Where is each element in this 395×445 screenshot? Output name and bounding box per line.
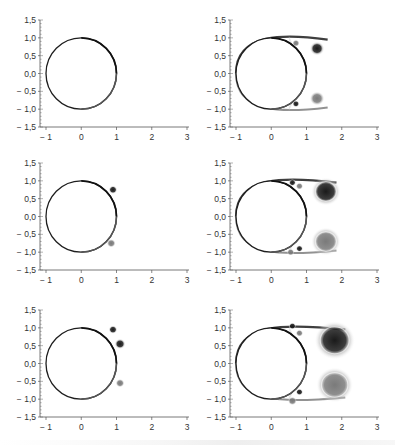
x-tick-label: 2 [339,132,344,142]
plot-area: 1,51,00,50,0− 0,5− 1,0− 1,5− 10123 [190,143,387,293]
y-tick-label: 1,0 [24,323,36,333]
y-tick-label: 0,5 [24,341,36,351]
x-tick-label: 0 [79,275,84,285]
y-tick-label: − 1,0 [207,104,226,114]
vortex [296,183,303,190]
vortex [287,249,294,256]
vortex [289,323,296,330]
y-tick-label: 0,0 [24,359,36,369]
x-tick-label: 2 [149,422,154,432]
y-tick-label: − 0,5 [17,376,36,386]
y-tick-label: − 1,5 [207,122,226,132]
y-tick-label: 1,5 [214,305,226,315]
y-tick-label: 0,5 [214,194,226,204]
y-tick-label: − 1,5 [17,122,36,132]
plot-area: 1,51,00,50,0− 0,5− 1,0− 1,5− 10123 [0,0,197,150]
panel-row3-right: 1,51,00,50,0− 0,5− 1,0− 1,5− 10123 [190,290,387,435]
y-tick-label: − 0,5 [207,86,226,96]
x-tick-label: − 1 [40,275,52,285]
y-tick-label: 1,0 [214,323,226,333]
y-tick-label: 1,0 [214,176,226,186]
y-tick-label: − 1,5 [17,412,36,422]
x-tick-label: 2 [339,422,344,432]
x-tick-label: 2 [149,275,154,285]
vortex [109,186,118,194]
vortex [296,245,303,252]
y-tick-label: − 1,0 [17,104,36,114]
y-tick-label: 1,5 [214,158,226,168]
y-tick-label: 0,0 [214,359,226,369]
y-tick-label: − 0,5 [207,376,226,386]
y-tick-label: − 0,5 [17,86,36,96]
x-tick-label: 1 [114,132,119,142]
vortex [109,325,118,333]
x-tick-label: − 1 [40,132,52,142]
x-tick-label: − 1 [40,422,52,432]
vortex [310,41,325,55]
panel-row1-right: 1,51,00,50,0− 0,5− 1,0− 1,5− 10123 [190,0,387,145]
x-tick-label: 3 [375,132,380,142]
y-tick-label: − 1,0 [207,394,226,404]
y-tick-label: − 1,5 [207,265,226,275]
y-tick-label: 0,0 [24,212,36,222]
plot-area: 1,51,00,50,0− 0,5− 1,0− 1,5− 10123 [190,0,387,150]
panel-row3-left: 1,51,00,50,0− 0,5− 1,0− 1,5− 10123 [0,290,197,435]
plot-area: 1,51,00,50,0− 0,5− 1,0− 1,5− 10123 [0,143,197,293]
vortex [114,339,125,350]
y-tick-label: 1,0 [214,33,226,43]
y-tick-label: 1,5 [24,305,36,315]
x-tick-label: 3 [375,275,380,285]
x-tick-label: 3 [185,132,190,142]
x-tick-label: 1 [304,132,309,142]
x-tick-label: 1 [304,422,309,432]
vortex [296,330,303,337]
y-tick-label: − 1,0 [17,394,36,404]
y-tick-label: 1,5 [24,15,36,25]
panel-row2-left: 1,51,00,50,0− 0,5− 1,0− 1,5− 10123 [0,143,197,288]
y-tick-label: − 0,5 [17,229,36,239]
x-tick-label: 0 [79,422,84,432]
x-tick-label: − 1 [230,275,242,285]
y-tick-label: − 1,5 [207,412,226,422]
panel-row2-right: 1,51,00,50,0− 0,5− 1,0− 1,5− 10123 [190,143,387,288]
x-tick-label: 0 [269,132,274,142]
footer-bleed [0,440,395,445]
y-tick-label: − 1,0 [207,247,226,257]
y-tick-label: 1,0 [24,33,36,43]
y-tick-label: − 0,5 [207,229,226,239]
y-tick-label: 0,5 [24,51,36,61]
vortex [288,397,297,405]
vortex [310,91,325,105]
x-tick-label: 2 [149,132,154,142]
y-tick-label: 0,5 [214,51,226,61]
x-tick-label: − 1 [230,422,242,432]
x-tick-label: 1 [114,422,119,432]
plot-area: 1,51,00,50,0− 0,5− 1,0− 1,5− 10123 [0,290,197,440]
x-tick-label: 1 [114,275,119,285]
vortex [116,379,125,387]
x-tick-label: 3 [185,275,190,285]
x-tick-label: − 1 [230,132,242,142]
y-tick-label: 0,0 [214,212,226,222]
panel-row1-left: 1,51,00,50,0− 0,5− 1,0− 1,5− 10123 [0,0,197,145]
x-tick-label: 2 [339,275,344,285]
x-tick-label: 0 [269,275,274,285]
y-tick-label: 0,5 [24,194,36,204]
x-tick-label: 1 [304,275,309,285]
y-tick-label: − 1,5 [17,265,36,275]
y-tick-label: 0,0 [24,69,36,79]
y-tick-label: − 1,0 [17,247,36,257]
vortex [296,389,303,396]
plot-area: 1,51,00,50,0− 0,5− 1,0− 1,5− 10123 [190,290,387,440]
x-tick-label: 3 [375,422,380,432]
y-tick-label: 0,5 [214,341,226,351]
y-tick-label: 1,5 [214,15,226,25]
x-tick-label: 0 [269,422,274,432]
x-tick-label: 0 [79,132,84,142]
x-tick-label: 3 [185,422,190,432]
y-tick-label: 1,0 [24,176,36,186]
y-tick-label: 0,0 [214,69,226,79]
y-tick-label: 1,5 [24,158,36,168]
